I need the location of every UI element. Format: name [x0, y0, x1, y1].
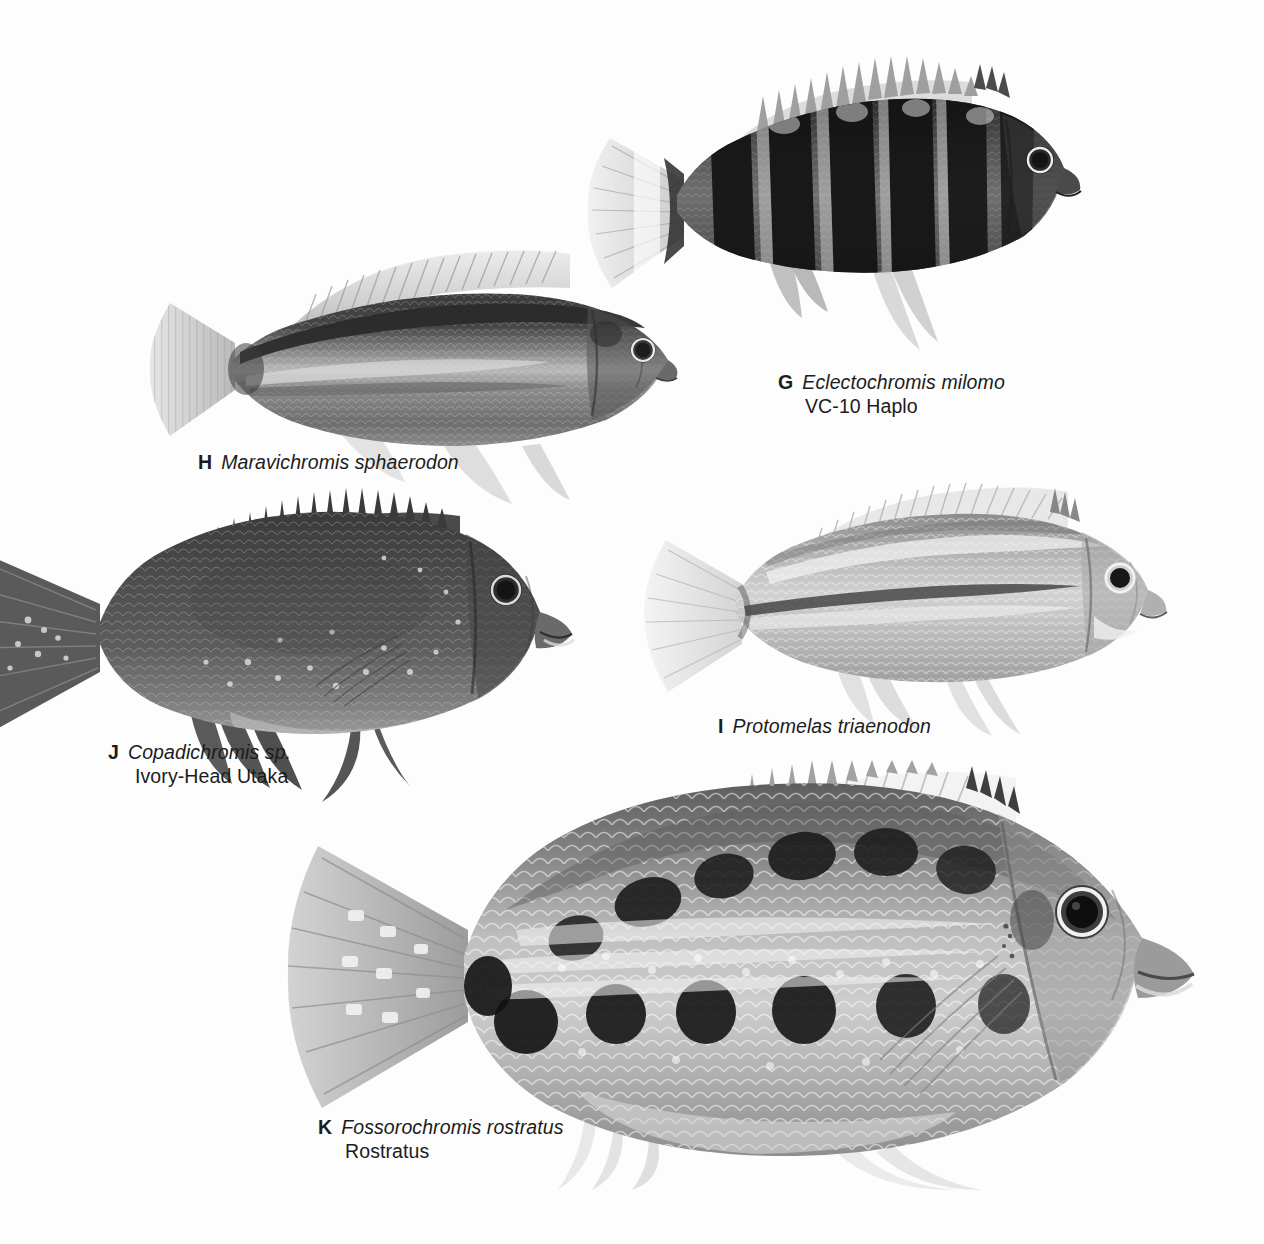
caption-letter-g: G: [778, 370, 793, 395]
specimen-image-i: [636, 466, 1206, 736]
caption-scientific-name-h: Maravichromis sphaerodon: [221, 451, 459, 473]
caption-common-name-j: Ivory-Head Utaka: [135, 764, 291, 789]
caption-scientific-name-i: Protomelas triaenodon: [733, 715, 931, 737]
specimen-image-j: [0, 472, 620, 802]
caption-h: HMaravichromis sphaerodon: [198, 450, 459, 475]
caption-letter-k: K: [318, 1115, 332, 1140]
caption-g: GEclectochromis milomo VC-10 Haplo: [778, 370, 1005, 419]
caption-common-name-k: Rostratus: [345, 1139, 564, 1164]
caption-scientific-name-g: Eclectochromis milomo: [802, 371, 1005, 393]
caption-i: IProtomelas triaenodon: [718, 714, 931, 739]
fish-plate: GEclectochromis milomo VC-10 Haplo HMara…: [0, 0, 1264, 1244]
caption-scientific-name-j: Copadichromis sp.: [128, 741, 291, 763]
caption-k: KFossorochromis rostratus Rostratus: [318, 1115, 564, 1164]
caption-letter-i: I: [718, 714, 724, 739]
specimen-image-g: [572, 50, 1112, 350]
caption-letter-h: H: [198, 450, 212, 475]
caption-scientific-name-k: Fossorochromis rostratus: [341, 1116, 563, 1138]
caption-j: JCopadichromis sp. Ivory-Head Utaka: [108, 740, 291, 789]
caption-common-name-g: VC-10 Haplo: [805, 394, 1005, 419]
caption-letter-j: J: [108, 740, 119, 765]
